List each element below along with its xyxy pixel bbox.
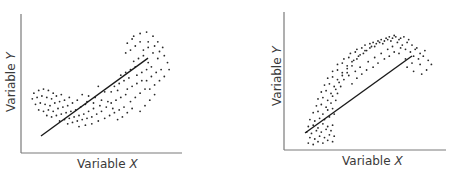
scatter-panel-right: Variable Y Variable X	[230, 0, 457, 182]
data-point	[33, 92, 35, 94]
x-axis-label-text: Variable	[342, 154, 394, 168]
data-point	[320, 91, 322, 93]
data-point	[314, 138, 316, 140]
data-point	[387, 39, 389, 41]
data-point	[330, 102, 332, 104]
data-point	[322, 97, 324, 99]
data-point	[309, 119, 311, 121]
data-point	[333, 86, 335, 88]
data-point	[359, 54, 361, 56]
data-point	[125, 52, 127, 54]
data-point	[131, 38, 133, 40]
data-point	[109, 115, 111, 117]
data-point	[419, 53, 421, 55]
data-point	[364, 50, 366, 52]
data-point	[93, 108, 95, 110]
y-axis-label-text: Variable	[270, 54, 284, 106]
data-point	[400, 37, 402, 39]
data-point	[398, 39, 400, 41]
data-point	[325, 128, 327, 130]
data-point	[377, 62, 379, 64]
data-point	[341, 62, 343, 64]
data-point	[144, 105, 146, 107]
data-point	[319, 135, 321, 137]
data-point	[419, 64, 421, 66]
data-point	[411, 62, 413, 64]
data-point	[418, 58, 420, 60]
data-point	[371, 46, 373, 48]
data-point	[78, 115, 80, 117]
data-point	[317, 111, 319, 113]
data-point	[162, 47, 164, 49]
data-point	[343, 79, 345, 81]
data-point	[338, 82, 340, 84]
data-point	[406, 66, 408, 68]
data-point	[117, 90, 119, 92]
data-point	[134, 97, 136, 99]
data-point	[157, 41, 159, 43]
data-point	[167, 62, 169, 64]
data-point	[99, 105, 101, 107]
data-point	[122, 116, 124, 118]
data-point	[309, 137, 311, 139]
data-point	[337, 79, 339, 81]
data-point	[311, 133, 313, 135]
data-point	[52, 92, 54, 94]
x-axis-label: Variable X	[77, 157, 138, 171]
data-point	[151, 76, 153, 78]
data-point	[317, 98, 319, 100]
data-point	[104, 117, 106, 119]
data-point	[413, 70, 415, 72]
data-point	[155, 72, 157, 74]
data-point	[388, 55, 390, 57]
data-point	[377, 40, 379, 42]
data-point	[390, 40, 392, 42]
data-point	[329, 134, 331, 136]
data-point	[151, 66, 153, 68]
data-point	[403, 36, 405, 38]
data-point	[48, 90, 50, 92]
data-point	[364, 44, 366, 46]
data-point	[44, 103, 46, 105]
data-point	[136, 83, 138, 85]
data-point	[416, 47, 418, 49]
data-point	[366, 69, 368, 71]
data-point	[426, 69, 428, 71]
data-point	[312, 124, 314, 126]
data-point	[123, 106, 125, 108]
data-point	[126, 112, 128, 114]
data-point	[163, 55, 165, 57]
data-point	[139, 33, 141, 35]
data-point	[60, 94, 62, 96]
data-point	[52, 110, 54, 112]
data-point	[68, 117, 70, 119]
data-point	[369, 43, 371, 45]
data-point	[147, 62, 149, 64]
data-point	[110, 91, 112, 93]
data-point	[333, 113, 335, 115]
data-point	[337, 64, 339, 66]
data-point	[332, 70, 334, 72]
data-point	[341, 72, 343, 74]
data-point	[68, 97, 70, 99]
data-point	[384, 40, 386, 42]
data-point	[133, 35, 135, 37]
data-point	[327, 77, 329, 79]
regression-line	[41, 58, 148, 136]
data-point	[387, 48, 389, 50]
data-point	[307, 126, 309, 128]
data-point	[39, 102, 41, 104]
data-point	[159, 51, 161, 53]
data-point	[65, 112, 67, 114]
data-point	[143, 55, 145, 57]
data-point	[168, 69, 170, 71]
data-point	[91, 123, 93, 125]
data-point	[86, 117, 88, 119]
data-point	[363, 53, 365, 55]
data-point	[332, 76, 334, 78]
data-point	[346, 72, 348, 74]
data-point	[354, 51, 356, 53]
data-point	[356, 77, 358, 79]
data-point	[133, 60, 135, 62]
data-point	[319, 117, 321, 119]
